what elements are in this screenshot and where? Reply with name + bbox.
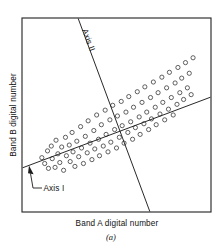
data-point [73, 164, 77, 168]
data-point [143, 85, 147, 89]
data-point [108, 118, 112, 122]
data-point [189, 93, 193, 97]
axis-one-callout: Axis I [28, 166, 64, 194]
data-point [61, 168, 65, 172]
data-point [117, 135, 121, 139]
data-point [135, 90, 139, 94]
data-point [148, 95, 152, 99]
data-point [120, 124, 124, 128]
data-point [68, 159, 72, 163]
data-point [113, 127, 117, 131]
axis-one-label: Axis I [44, 184, 65, 193]
plot-interior [22, 18, 211, 212]
data-point [124, 110, 128, 114]
data-point [131, 105, 135, 109]
data-point [85, 151, 89, 155]
data-point [140, 100, 144, 104]
data-point [60, 145, 64, 149]
data-point [187, 71, 191, 75]
axis-two-label: Axis II [80, 28, 97, 53]
scatter-point-layer [40, 56, 195, 173]
axis-one-leader-line [31, 174, 43, 189]
data-point [63, 135, 67, 139]
data-point [90, 158, 94, 162]
data-point [64, 154, 68, 158]
data-point [81, 161, 85, 165]
data-point [101, 144, 105, 148]
data-point [153, 105, 157, 109]
data-point [92, 128, 96, 132]
data-point [183, 61, 187, 65]
data-point [147, 127, 151, 131]
data-point [154, 123, 158, 127]
data-point [185, 86, 189, 90]
data-point [115, 114, 119, 118]
data-point [43, 161, 47, 165]
data-point [129, 120, 133, 124]
data-point [67, 143, 71, 147]
data-point [137, 115, 141, 119]
data-point [70, 130, 74, 134]
data-point [127, 94, 131, 98]
data-point [145, 110, 149, 114]
data-point [58, 160, 62, 164]
data-point [175, 102, 179, 106]
data-point [75, 139, 79, 143]
data-point [161, 100, 165, 104]
data-point [167, 70, 171, 74]
data-point [45, 149, 49, 153]
data-point [93, 147, 97, 151]
data-point [40, 156, 44, 160]
data-point [138, 132, 142, 136]
data-point [164, 86, 168, 90]
data-point [173, 81, 177, 85]
data-point [191, 56, 195, 60]
data-point [77, 155, 81, 159]
data-point [130, 137, 134, 141]
x-axis-title: Band A digital number [76, 219, 159, 228]
data-point [163, 118, 167, 122]
data-point [109, 140, 113, 144]
plot-frame [22, 18, 211, 212]
data-point [160, 75, 164, 79]
data-point [46, 166, 50, 170]
data-point [169, 95, 173, 99]
data-point [156, 91, 160, 95]
data-point [54, 138, 58, 142]
data-point [119, 99, 123, 103]
data-point [78, 125, 82, 129]
axis-one-line [22, 97, 211, 168]
data-point [83, 134, 87, 138]
data-point [103, 108, 107, 112]
data-point [171, 113, 175, 117]
data-point [95, 113, 99, 117]
data-point [99, 123, 103, 127]
y-axis-title: Band B digital number [9, 73, 18, 157]
data-point [166, 107, 170, 111]
data-point [114, 146, 118, 150]
data-point [151, 80, 155, 84]
figure-container: Axis II Axis I Band B digital number Ban… [0, 0, 223, 243]
data-point [126, 130, 130, 134]
data-point [97, 154, 101, 158]
data-point [106, 150, 110, 154]
axis-one-arrowhead [28, 166, 34, 175]
data-point [181, 97, 185, 101]
data-point [71, 150, 75, 154]
data-point [53, 165, 57, 169]
data-point [180, 76, 184, 80]
scatter-plot-figure: Axis II Axis I Band B digital number Ban… [0, 0, 223, 243]
figure-caption: (a) [106, 232, 116, 242]
data-point [86, 119, 90, 123]
data-point [176, 65, 180, 69]
data-point [178, 91, 182, 95]
data-point [49, 144, 53, 148]
